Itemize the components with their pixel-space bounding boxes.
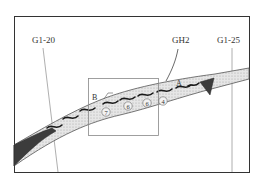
label-b: B [92, 93, 97, 102]
label-a: A [176, 79, 182, 88]
label-g1-25: G1-25 [217, 35, 240, 45]
label-g1-20: G1-20 [32, 35, 55, 45]
marker-4: 4 [159, 97, 167, 105]
marker-6b: 6 [143, 99, 151, 107]
marker-6a: 6 [124, 102, 132, 110]
marker-7: 7 [102, 108, 110, 116]
geologic-cross-section: 7 6 6 4 G1-20 GH2 G1-25 A B [0, 0, 262, 186]
label-gh2: GH2 [172, 35, 190, 45]
